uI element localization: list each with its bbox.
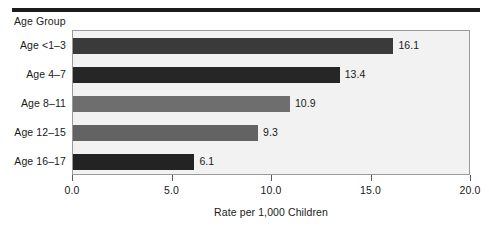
category-label-5: Age 16–17 — [0, 155, 66, 167]
value-label-1: 16.1 — [398, 39, 419, 51]
x-tick-mark-1 — [172, 175, 173, 181]
x-tick-mark-0 — [72, 175, 73, 181]
x-tick-label-3: 15.0 — [360, 184, 381, 196]
x-axis-title: Rate per 1,000 Children — [72, 206, 470, 219]
value-label-2: 13.4 — [345, 68, 366, 80]
value-label-4: 9.3 — [263, 126, 278, 138]
x-tick-mark-2 — [271, 175, 272, 181]
x-tick-mark-3 — [371, 175, 372, 181]
value-label-3: 10.9 — [295, 97, 316, 109]
bar-1 — [73, 38, 393, 54]
category-label-2: Age 4–7 — [0, 68, 66, 80]
value-label-5: 6.1 — [199, 155, 214, 167]
bar-4 — [73, 125, 258, 141]
plot-area — [72, 30, 470, 175]
x-tick-mark-4 — [470, 175, 471, 181]
bar-5 — [73, 154, 194, 170]
bar-3 — [73, 96, 290, 112]
category-label-3: Age 8–11 — [0, 97, 66, 109]
y-axis-title: Age Group — [14, 15, 66, 28]
category-label-1: Age <1–3 — [0, 39, 66, 51]
x-tick-label-0: 0.0 — [65, 184, 80, 196]
bar-2 — [73, 67, 340, 83]
x-tick-label-2: 10.0 — [261, 184, 282, 196]
top-divider-rule — [12, 8, 480, 12]
x-tick-label-1: 5.0 — [164, 184, 179, 196]
category-label-4: Age 12–15 — [0, 126, 66, 138]
x-tick-label-4: 20.0 — [460, 184, 481, 196]
bars-container — [73, 31, 469, 174]
